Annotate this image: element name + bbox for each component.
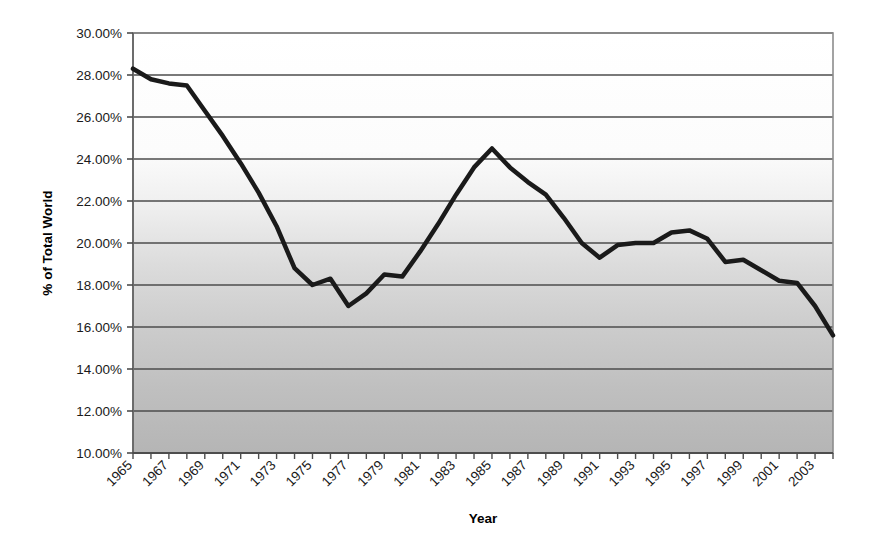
- y-tick-label: 28.00%: [76, 68, 122, 83]
- x-tick-label: 2001: [749, 458, 781, 490]
- y-axis-title: % of Total World: [40, 190, 55, 295]
- x-tick-label: 1985: [462, 458, 494, 490]
- y-tick-label: 18.00%: [76, 278, 122, 293]
- x-tick-label: 1973: [247, 458, 279, 490]
- y-tick-label: 30.00%: [76, 26, 122, 41]
- x-tick-label: 1999: [714, 458, 746, 490]
- x-tick-label: 1995: [642, 458, 674, 490]
- y-tick-label: 14.00%: [76, 362, 122, 377]
- x-tick-label: 1981: [390, 458, 422, 490]
- x-tick-label: 1997: [678, 458, 710, 490]
- chart-container: 10.00%12.00%14.00%16.00%18.00%20.00%22.0…: [0, 0, 875, 540]
- y-tick-label: 16.00%: [76, 320, 122, 335]
- y-tick-label: 26.00%: [76, 110, 122, 125]
- x-axis-title: Year: [469, 511, 498, 526]
- line-chart: 10.00%12.00%14.00%16.00%18.00%20.00%22.0…: [0, 0, 875, 540]
- y-tick-label: 20.00%: [76, 236, 122, 251]
- x-tick-label: 1965: [103, 458, 135, 490]
- y-tick-label: 10.00%: [76, 446, 122, 461]
- x-tick-label: 1983: [426, 458, 458, 490]
- x-tick-label: 1971: [211, 458, 243, 490]
- x-tick-label: 2003: [785, 458, 817, 490]
- x-tick-label: 1989: [534, 458, 566, 490]
- x-tick-label: 1969: [175, 458, 207, 490]
- x-tick-label: 1993: [606, 458, 638, 490]
- x-tick-label: 1991: [570, 458, 602, 490]
- x-axis-tick-labels: 1965196719691971197319751977197919811983…: [103, 458, 817, 490]
- y-tick-label: 24.00%: [76, 152, 122, 167]
- x-tick-label: 1987: [498, 458, 530, 490]
- y-axis-ticks: 10.00%12.00%14.00%16.00%18.00%20.00%22.0…: [76, 26, 133, 461]
- x-tick-label: 1975: [283, 458, 315, 490]
- x-tick-label: 1967: [139, 458, 171, 490]
- x-tick-label: 1977: [319, 458, 351, 490]
- x-tick-label: 1979: [355, 458, 387, 490]
- y-tick-label: 22.00%: [76, 194, 122, 209]
- y-tick-label: 12.00%: [76, 404, 122, 419]
